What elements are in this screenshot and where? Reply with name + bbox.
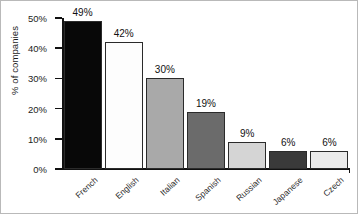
x-axis-label-czech: Czech xyxy=(299,175,346,216)
bar-value-label: 42% xyxy=(114,28,134,39)
y-axis-tick xyxy=(55,78,62,80)
bar-russian[interactable] xyxy=(228,142,266,169)
bar-czech[interactable] xyxy=(310,151,348,169)
y-axis-tick xyxy=(55,17,62,19)
y-axis-tick-label: 10% xyxy=(0,133,47,144)
x-axis-label-russian: Russian xyxy=(217,175,264,216)
y-axis-tick-label: 30% xyxy=(0,73,47,84)
bar-japanese[interactable] xyxy=(269,151,307,169)
bar-chart-figure: % of companies 0%10%20%30%40%50% FrenchE… xyxy=(0,0,358,214)
bar-value-label: 30% xyxy=(155,64,175,75)
y-axis-tick xyxy=(55,168,62,170)
y-axis-tick-label: 40% xyxy=(0,43,47,54)
bar-value-label: 49% xyxy=(73,7,93,18)
bar-spanish[interactable] xyxy=(187,112,225,169)
y-axis-tick xyxy=(55,47,62,49)
y-axis-tick xyxy=(55,108,62,110)
bar-value-label: 19% xyxy=(196,98,216,109)
x-axis-label-french: French xyxy=(52,175,99,216)
x-axis-label-japanese: Japanese xyxy=(258,175,305,216)
bar-italian[interactable] xyxy=(146,78,184,169)
x-axis-label-english: English xyxy=(94,175,141,216)
bar-english[interactable] xyxy=(105,42,143,169)
x-axis-label-italian: Italian xyxy=(135,175,182,216)
bar-value-label: 6% xyxy=(281,137,295,148)
y-axis-tick-label: 50% xyxy=(0,13,47,24)
x-axis-label-spanish: Spanish xyxy=(176,175,223,216)
bar-value-label: 6% xyxy=(322,137,336,148)
plot-area xyxy=(62,18,350,169)
bar-value-label: 9% xyxy=(240,128,254,139)
bar-french[interactable] xyxy=(64,21,102,169)
y-axis-tick-label: 0% xyxy=(0,164,47,175)
y-axis-tick xyxy=(55,138,62,140)
y-axis-tick-label: 20% xyxy=(0,103,47,114)
